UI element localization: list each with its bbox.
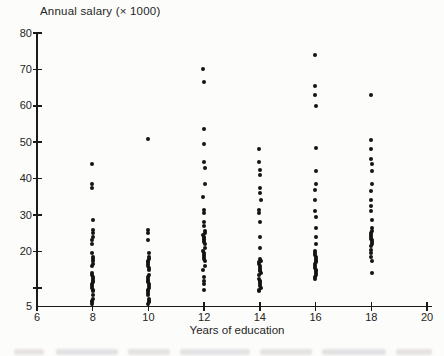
y-tick-label-40: 40 — [6, 173, 32, 184]
y-tick-label-20: 20 — [6, 246, 32, 257]
y-tick-label-5: 5 — [6, 301, 32, 312]
y-tick-label-80: 80 — [6, 28, 32, 39]
data-point — [314, 226, 318, 230]
data-point — [147, 268, 151, 272]
x-tick-label-6: 6 — [22, 312, 52, 323]
smudge-fragment — [180, 349, 250, 355]
smudge-fragment — [128, 349, 170, 355]
x-tick-label-20: 20 — [412, 312, 442, 323]
data-point — [203, 182, 207, 186]
x-tick-12 — [203, 302, 205, 311]
y-tick-label-30: 30 — [6, 210, 32, 221]
data-point — [313, 53, 317, 57]
x-tick-label-16: 16 — [301, 312, 331, 323]
data-point — [203, 259, 207, 263]
data-point — [369, 93, 373, 97]
data-point — [314, 104, 318, 108]
y-tick-label-60: 60 — [6, 100, 32, 111]
plot-area — [37, 33, 427, 306]
smudge-fragment — [322, 349, 386, 355]
y-axis-title: Annual salary (× 1000) — [40, 5, 160, 17]
data-point — [146, 302, 150, 306]
x-tick-label-14: 14 — [245, 312, 275, 323]
data-point — [258, 246, 262, 250]
data-point — [369, 204, 373, 208]
y-tick-70 — [33, 69, 42, 71]
y-tick-60 — [33, 105, 42, 107]
x-tick-14 — [259, 302, 261, 311]
data-point — [369, 189, 373, 193]
y-tick-label-50: 50 — [6, 137, 32, 148]
smudge-fragment — [260, 349, 312, 355]
x-tick-6 — [36, 302, 38, 311]
y-tick-50 — [33, 141, 42, 143]
y-tick-30 — [33, 214, 42, 216]
smudge-fragment — [14, 349, 44, 355]
scatter-plot-figure: Annual salary (× 1000) 52030405060708068… — [0, 0, 444, 356]
data-point — [203, 166, 207, 170]
y-tick-40 — [33, 178, 42, 180]
data-point — [258, 235, 262, 239]
data-point — [314, 146, 318, 150]
data-point — [90, 162, 94, 166]
x-tick-20 — [426, 302, 428, 311]
y-tick-label-70: 70 — [6, 64, 32, 75]
x-tick-label-18: 18 — [356, 312, 386, 323]
data-point — [90, 264, 94, 268]
smudge-fragment — [56, 349, 118, 355]
data-point — [313, 188, 317, 192]
data-point — [258, 220, 262, 224]
x-tick-label-10: 10 — [133, 312, 163, 323]
smudge-fragment — [396, 349, 432, 355]
cutoff-caption-smudge — [0, 348, 444, 356]
y-tick-10 — [33, 287, 42, 289]
y-axis — [36, 33, 38, 307]
x-tick-18 — [371, 302, 373, 311]
data-point — [313, 277, 317, 281]
data-point — [313, 84, 317, 88]
y-tick-20 — [33, 251, 42, 253]
y-tick-80 — [33, 32, 42, 34]
data-point — [258, 173, 262, 177]
data-point — [369, 157, 373, 161]
data-point — [314, 215, 318, 219]
data-point — [146, 137, 150, 141]
x-tick-label-8: 8 — [78, 312, 108, 323]
data-point — [314, 235, 318, 239]
x-axis-title: Years of education — [162, 324, 312, 336]
data-point — [370, 259, 374, 263]
x-tick-label-12: 12 — [189, 312, 219, 323]
x-axis — [36, 306, 432, 308]
data-point — [258, 168, 262, 172]
data-point — [202, 80, 206, 84]
data-point — [258, 186, 262, 190]
x-tick-16 — [315, 302, 317, 311]
data-point — [370, 162, 374, 166]
